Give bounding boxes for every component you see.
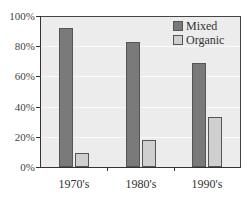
y-tick-label: 20%: [15, 132, 35, 143]
legend-swatch-organic: [173, 35, 183, 45]
y-tick-label: 60%: [15, 71, 35, 82]
y-tick-label: 100%: [9, 11, 35, 22]
bar-mixed-1970: [59, 28, 73, 167]
x-axis: [40, 167, 241, 168]
y-axis: [40, 16, 41, 168]
legend: Mixed Organic: [173, 19, 224, 47]
x-tick-label: 1980's: [116, 177, 166, 192]
x-tick-mark: [174, 168, 175, 171]
y-tick-label: 80%: [15, 41, 35, 52]
bar-mixed-1980: [126, 42, 140, 167]
y-tick-mark: [36, 16, 40, 17]
x-tick-label: 1990's: [182, 177, 232, 192]
x-tick-label: 1970's: [49, 177, 99, 192]
bar-organic-1970: [75, 153, 89, 167]
legend-item-mixed: Mixed: [173, 19, 224, 33]
y-tick-mark: [36, 107, 40, 108]
legend-swatch-mixed: [173, 21, 183, 31]
bar-mixed-1990: [192, 63, 206, 167]
bar-organic-1990: [208, 117, 222, 167]
legend-label-organic: Organic: [186, 33, 224, 48]
y-tick-mark: [36, 76, 40, 77]
y-tick-mark: [36, 137, 40, 138]
y-tick-mark: [36, 167, 40, 168]
x-tick-mark: [107, 168, 108, 171]
y-tick-mark: [36, 46, 40, 47]
legend-item-organic: Organic: [173, 33, 224, 47]
y-tick-label: 0%: [20, 162, 35, 173]
legend-label-mixed: Mixed: [186, 19, 217, 34]
y-tick-label: 40%: [15, 102, 35, 113]
bar-organic-1980: [142, 140, 156, 167]
